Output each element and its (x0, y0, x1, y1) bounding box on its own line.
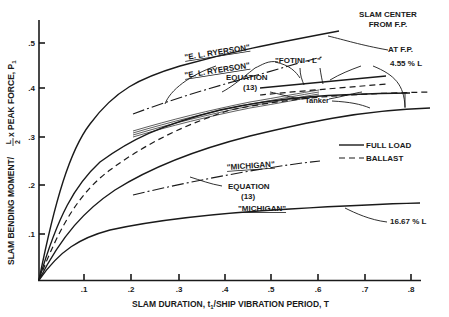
axes (38, 20, 421, 281)
legend-ballast-label: BALLAST (366, 154, 403, 163)
x-tick-label: .2 (128, 285, 135, 294)
y-tick-label: .2 (28, 181, 35, 190)
x-tick-label: .5 (268, 285, 275, 294)
curve-455-full-load (39, 93, 410, 280)
ryerson-label-1: "E. L. RYERSON" (184, 43, 251, 62)
legend: FULL LOAD BALLAST (339, 141, 411, 163)
y-tick-label: .5 (28, 39, 35, 48)
y-axis-label: SLAM BENDING MOMENT/ L 2 x PEAK FORCE, P… (5, 60, 21, 265)
pct-455-label: 4.55 % L (390, 59, 422, 68)
curve-tanker-full-load (39, 108, 430, 280)
curve-fotini-full-load (260, 76, 386, 88)
x-tick-label: .8 (408, 285, 415, 294)
x-tick-label: .1 (81, 285, 88, 294)
y-ticks: .1 .2 .3 .4 .5 (28, 39, 45, 239)
x-axis-label: SLAM DURATION, t1/SHIP VIBRATION PERIOD,… (132, 299, 330, 310)
y-tick-label: .1 (28, 230, 35, 239)
svg-text:L: L (5, 139, 12, 144)
svg-text:SLAM BENDING MOMENT/: SLAM BENDING MOMENT/ (6, 156, 16, 265)
equation-label-1: EQUATION (226, 73, 268, 82)
slam-center-label: SLAM CENTER (359, 10, 417, 19)
x-ticks: .1 .2 .3 .4 .5 .6 .7 .8 (81, 274, 415, 294)
curve-1667-michigan (39, 203, 420, 280)
tanker-label: Tanker (305, 96, 329, 105)
y-tick-label: .3 (28, 133, 35, 142)
x-tick-label: .4 (222, 285, 229, 294)
equation-label-2: EQUATION (228, 182, 270, 191)
equation-label-1b: (13) (243, 83, 258, 92)
slam-center-label-2: FROM F.P. (369, 20, 408, 29)
fotini-label: "FOTINI - L" (275, 56, 321, 65)
slam-bending-moment-chart: .1 .2 .3 .4 .5 .1 .2 .3 .4 .5 .6 .7 .8 S… (0, 0, 449, 317)
annotations: SLAM CENTER FROM F.P. AT F.P. 4.55 % L 1… (184, 10, 427, 226)
legend-full-load-label: FULL LOAD (366, 141, 411, 150)
pct-1667-label: 16.67 % L (390, 217, 427, 226)
x-tick-label: .6 (315, 285, 322, 294)
svg-text:2: 2 (14, 140, 21, 144)
svg-text:x PEAK FORCE, P1: x PEAK FORCE, P1 (6, 60, 17, 137)
at-fp-label: AT F.P. (388, 45, 413, 54)
y-tick-label: .4 (28, 84, 35, 93)
michigan-label-2: "MICHIGAN" (238, 204, 286, 213)
michigan-label-1: "MICHIGAN" (227, 160, 276, 172)
curve-at-fp-full-load (39, 31, 339, 280)
x-tick-label: .3 (176, 285, 183, 294)
x-tick-label: .7 (362, 285, 369, 294)
equation-label-2b: (13) (241, 192, 256, 201)
